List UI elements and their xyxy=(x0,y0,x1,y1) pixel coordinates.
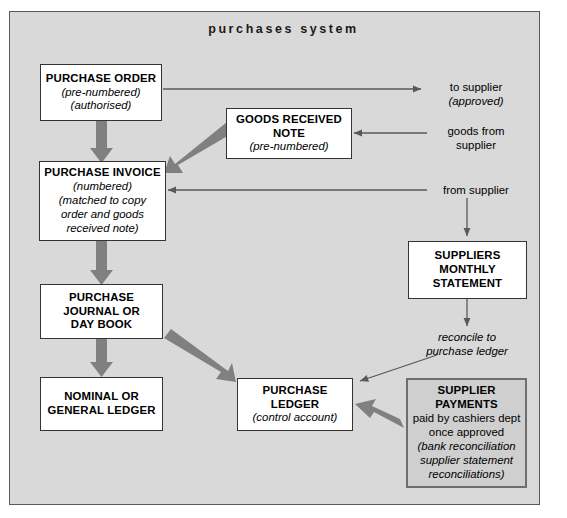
grn-sub: (pre-numbered) xyxy=(249,140,328,154)
label-to-supplier-line1: to supplier xyxy=(428,80,524,94)
payments-line-4: once approved xyxy=(429,426,504,440)
statement-line-1: SUPPLIERS xyxy=(435,249,501,263)
box-suppliers-monthly-statement[interactable]: SUPPLIERS MONTHLY STATEMENT xyxy=(408,241,527,299)
box-purchase-ledger[interactable]: PURCHASE LEDGER (control account) xyxy=(237,378,353,431)
box-purchase-invoice[interactable]: PURCHASE INVOICE (numbered) (matched to … xyxy=(39,161,166,241)
label-from-supplier: from supplier xyxy=(428,183,524,197)
purchase-ledger-line-2: LEDGER xyxy=(271,398,319,412)
payments-line-3: paid by cashiers dept xyxy=(413,412,521,426)
payments-line-6: supplier statement xyxy=(420,454,513,468)
payments-line-7: reconciliations) xyxy=(429,468,505,482)
payments-line-5: (bank reconciliation xyxy=(417,440,515,454)
diagram-canvas: purchases system xyxy=(0,0,567,518)
nominal-line-1: NOMINAL OR xyxy=(64,390,139,404)
label-goods-from-supplier: goods from supplier xyxy=(428,124,524,153)
arrow-journal-to-nominal xyxy=(90,339,113,377)
label-reconcile: reconcile to purchase ledger xyxy=(406,330,528,359)
journal-line-2: JOURNAL OR xyxy=(63,305,140,319)
payments-line-1: SUPPLIER xyxy=(437,384,495,398)
arrow-payments-to-ledger xyxy=(355,399,404,428)
journal-line-1: PURCHASE xyxy=(69,291,134,305)
label-goods-from-supplier-line2: supplier xyxy=(428,138,524,152)
purchase-invoice-title: PURCHASE INVOICE xyxy=(44,166,160,180)
arrow-order-to-invoice xyxy=(90,121,113,163)
purchase-invoice-sub1: (numbered) xyxy=(73,180,132,194)
purchase-order-sub1: (pre-numbered) xyxy=(61,86,140,100)
box-supplier-payments[interactable]: SUPPLIER PAYMENTS paid by cashiers dept … xyxy=(406,378,527,488)
label-from-supplier-line1: from supplier xyxy=(428,183,524,197)
arrow-journal-to-purchase-ledger xyxy=(164,329,236,382)
grn-title-1: GOODS RECEIVED xyxy=(236,113,342,127)
label-to-supplier-line2: (approved) xyxy=(448,95,503,107)
box-purchase-order[interactable]: PURCHASE ORDER (pre-numbered) (authorise… xyxy=(40,64,162,121)
label-reconcile-line2: purchase ledger xyxy=(426,345,508,357)
purchase-invoice-sub4: received note) xyxy=(66,222,138,236)
purchase-ledger-sub: (control account) xyxy=(253,411,338,425)
arrow-grn-to-invoice xyxy=(164,122,234,173)
label-to-supplier: to supplier (approved) xyxy=(428,80,524,109)
purchase-order-title: PURCHASE ORDER xyxy=(46,72,156,86)
statement-line-2: MONTHLY xyxy=(439,263,495,277)
label-reconcile-line1: reconcile to xyxy=(438,331,496,343)
box-purchase-journal[interactable]: PURCHASE JOURNAL OR DAY BOOK xyxy=(40,284,163,339)
purchase-invoice-sub3: order and goods xyxy=(61,208,144,222)
journal-line-3: DAY BOOK xyxy=(71,318,132,332)
payments-line-2: PAYMENTS xyxy=(435,398,498,412)
box-goods-received-note[interactable]: GOODS RECEIVED NOTE (pre-numbered) xyxy=(226,108,352,159)
statement-line-3: STATEMENT xyxy=(433,277,502,291)
box-nominal-ledger[interactable]: NOMINAL OR GENERAL LEDGER xyxy=(40,377,163,431)
arrow-invoice-to-journal xyxy=(90,241,113,285)
nominal-line-2: GENERAL LEDGER xyxy=(47,404,155,418)
purchase-invoice-sub2: (matched to copy xyxy=(59,194,146,208)
label-goods-from-supplier-line1: goods from xyxy=(428,124,524,138)
purchase-order-sub2: (authorised) xyxy=(71,99,132,113)
grn-title-2: NOTE xyxy=(273,127,305,141)
purchase-ledger-line-1: PURCHASE xyxy=(262,384,327,398)
